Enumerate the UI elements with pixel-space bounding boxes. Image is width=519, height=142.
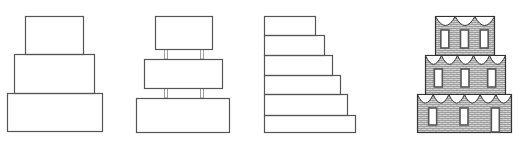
window	[461, 69, 469, 87]
window	[429, 108, 437, 125]
window	[460, 108, 468, 125]
pillar-2	[201, 49, 204, 59]
window	[461, 30, 469, 48]
pillar-1	[165, 49, 168, 59]
window	[488, 69, 496, 87]
tiered-structures-diagram	[0, 0, 519, 142]
decorated-tier-1	[436, 17, 495, 56]
tier-3	[8, 94, 103, 132]
figure-staircase	[265, 17, 356, 133]
door	[491, 108, 499, 132]
scallop-trim	[436, 17, 495, 26]
window	[480, 30, 488, 48]
figure-separated-tiers-with-pillars	[137, 17, 230, 133]
tier-2	[15, 55, 95, 94]
step-1	[265, 17, 316, 36]
decorated-tier-2	[426, 56, 506, 95]
decorated-tier-3	[418, 95, 512, 133]
tier-3	[137, 99, 230, 133]
pillar-3	[165, 88, 168, 98]
step-2	[265, 36, 325, 56]
step-4	[265, 76, 341, 95]
tier-1	[26, 17, 84, 55]
step-6	[265, 116, 356, 133]
tier-2	[145, 60, 223, 89]
figure-stacked-three-tier	[8, 17, 103, 132]
window	[441, 30, 449, 48]
window	[434, 69, 442, 87]
step-3	[265, 56, 333, 76]
figure-decorated-brick-tiers	[418, 17, 512, 133]
pillar-4	[201, 88, 204, 98]
step-5	[265, 95, 348, 116]
tier-1	[156, 17, 213, 50]
